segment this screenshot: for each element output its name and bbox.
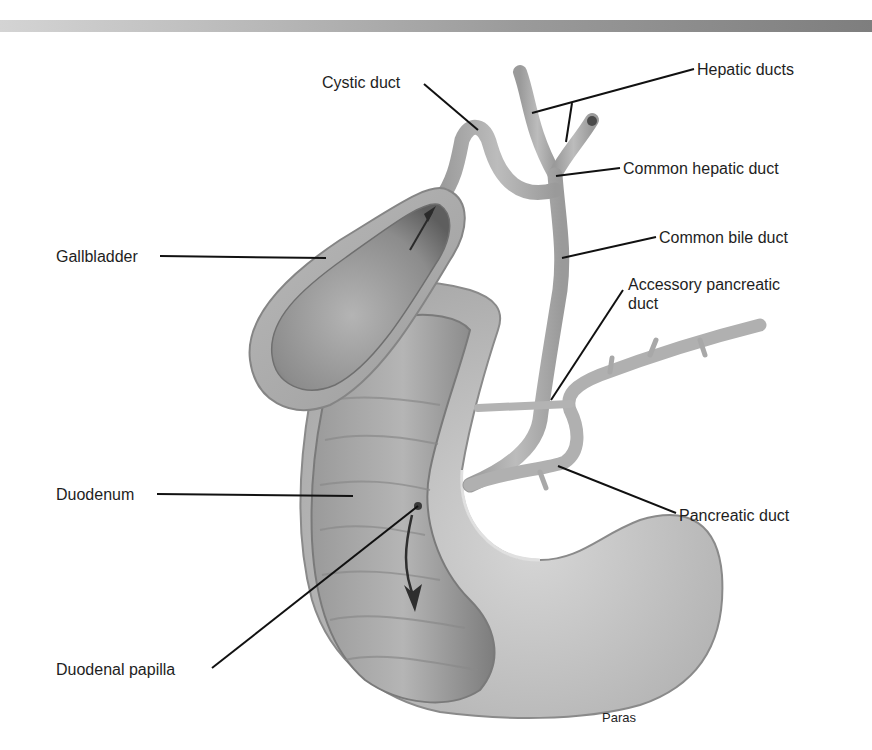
leader-gallbladder	[160, 256, 326, 258]
anatomy-illustration	[0, 0, 872, 750]
label-common-bile-duct: Common bile duct	[659, 228, 788, 247]
leader-hepatic-ducts-main	[532, 69, 694, 113]
label-accessory-pancreatic-duct: Accessory pancreatic duct	[628, 275, 780, 313]
label-common-hepatic-duct: Common hepatic duct	[623, 159, 779, 178]
artist-credit: Paras	[602, 708, 636, 727]
label-gallbladder: Gallbladder	[56, 247, 138, 266]
leader-common-bile-duct	[562, 237, 656, 258]
leader-cystic-duct	[424, 84, 478, 130]
leader-hepatic-ducts-branch	[566, 103, 572, 142]
leader-pancreatic-duct	[558, 466, 676, 513]
label-duodenal-papilla: Duodenal papilla	[56, 660, 175, 679]
label-hepatic-ducts: Hepatic ducts	[697, 60, 794, 79]
label-duodenum: Duodenum	[56, 485, 134, 504]
label-cystic-duct: Cystic duct	[322, 73, 400, 92]
label-pancreatic-duct: Pancreatic duct	[679, 506, 789, 525]
